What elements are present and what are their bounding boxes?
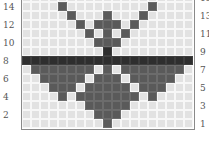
chart-cell-r3-c9 <box>94 101 103 110</box>
chart-cell-r11-c15 <box>148 29 157 38</box>
chart-cell-r9-c6 <box>67 47 76 56</box>
chart-cell-r5-c17 <box>166 83 175 92</box>
chart-cell-r4-c19 <box>184 92 193 101</box>
chart-cell-r9-c2 <box>31 47 40 56</box>
chart-cell-r4-c7 <box>76 92 85 101</box>
chart-cell-r10-c1 <box>22 38 31 47</box>
chart-cell-r4-c2 <box>31 92 40 101</box>
chart-cell-r14-c3 <box>40 2 49 11</box>
chart-cell-r12-c2 <box>31 20 40 29</box>
chart-cell-r1-c7 <box>76 119 85 128</box>
chart-cell-r14-c13 <box>130 2 139 11</box>
chart-cell-r6-c12 <box>121 74 130 83</box>
chart-cell-r6-c5 <box>58 74 67 83</box>
chart-cell-r14-c10 <box>103 2 112 11</box>
chart-cell-r11-c8 <box>85 29 94 38</box>
chart-cell-r10-c6 <box>67 38 76 47</box>
chart-cell-r1-c5 <box>58 119 67 128</box>
chart-cell-r13-c19 <box>184 11 193 20</box>
chart-cell-r5-c14 <box>139 83 148 92</box>
chart-cell-r5-c3 <box>40 83 49 92</box>
chart-cell-r6-c3 <box>40 74 49 83</box>
chart-cell-r10-c3 <box>40 38 49 47</box>
chart-cell-r5-c15 <box>148 83 157 92</box>
chart-cell-r13-c2 <box>31 11 40 20</box>
chart-cell-r13-c7 <box>76 11 85 20</box>
chart-cell-r12-c16 <box>157 20 166 29</box>
chart-cell-r11-c14 <box>139 29 148 38</box>
chart-cell-r4-c17 <box>166 92 175 101</box>
chart-cell-r4-c1 <box>22 92 31 101</box>
chart-cell-r6-c18 <box>175 74 184 83</box>
row-label-1: 1 <box>200 120 209 129</box>
chart-cell-r10-c2 <box>31 38 40 47</box>
chart-cell-r3-c6 <box>67 101 76 110</box>
chart-cell-r10-c17 <box>166 38 175 47</box>
chart-cell-r13-c5 <box>58 11 67 20</box>
chart-cell-r10-c15 <box>148 38 157 47</box>
chart-cell-r4-c9 <box>94 92 103 101</box>
chart-cell-r2-c13 <box>130 110 139 119</box>
chart-cell-r10-c16 <box>157 38 166 47</box>
chart-cell-r10-c12 <box>121 38 130 47</box>
chart-cell-r7-c19 <box>184 65 193 74</box>
chart-cell-r5-c18 <box>175 83 184 92</box>
chart-cell-r4-c4 <box>49 92 58 101</box>
chart-cell-r10-c4 <box>49 38 58 47</box>
chart-cell-r1-c6 <box>67 119 76 128</box>
chart-cell-r2-c14 <box>139 110 148 119</box>
chart-cell-r6-c14 <box>139 74 148 83</box>
chart-cell-r12-c12 <box>121 20 130 29</box>
row-label-15: 15 <box>200 0 209 3</box>
chart-cell-r10-c7 <box>76 38 85 47</box>
chart-cell-r12-c4 <box>49 20 58 29</box>
chart-cell-r8-c6 <box>67 56 76 65</box>
chart-cell-r5-c16 <box>157 83 166 92</box>
chart-cell-r13-c11 <box>112 11 121 20</box>
chart-cell-r12-c8 <box>85 20 94 29</box>
chart-cell-r10-c9 <box>94 38 103 47</box>
chart-cell-r1-c3 <box>40 119 49 128</box>
knitting-chart-grid <box>22 0 193 128</box>
chart-cell-r6-c17 <box>166 74 175 83</box>
chart-cell-r2-c17 <box>166 110 175 119</box>
row-label-5: 5 <box>200 84 209 93</box>
chart-cell-r5-c11 <box>112 83 121 92</box>
chart-cell-r8-c17 <box>166 56 175 65</box>
chart-cell-r6-c2 <box>31 74 40 83</box>
chart-cell-r1-c4 <box>49 119 58 128</box>
chart-cell-r8-c18 <box>175 56 184 65</box>
chart-cell-r8-c15 <box>148 56 157 65</box>
chart-cell-r9-c11 <box>112 47 121 56</box>
chart-cell-r2-c18 <box>175 110 184 119</box>
chart-cell-r9-c8 <box>85 47 94 56</box>
chart-cell-r6-c9 <box>94 74 103 83</box>
chart-cell-r14-c12 <box>121 2 130 11</box>
chart-cell-r8-c2 <box>31 56 40 65</box>
chart-cell-r1-c14 <box>139 119 148 128</box>
chart-cell-r3-c2 <box>31 101 40 110</box>
chart-cell-r14-c5 <box>58 2 67 11</box>
chart-cell-r7-c18 <box>175 65 184 74</box>
chart-cell-r3-c11 <box>112 101 121 110</box>
chart-cell-r7-c16 <box>157 65 166 74</box>
chart-cell-r1-c16 <box>157 119 166 128</box>
chart-cell-r12-c19 <box>184 20 193 29</box>
chart-cell-r11-c7 <box>76 29 85 38</box>
chart-cell-r8-c10 <box>103 56 112 65</box>
chart-cell-r5-c5 <box>58 83 67 92</box>
chart-cell-r9-c10 <box>103 47 112 56</box>
chart-cell-r7-c5 <box>58 65 67 74</box>
chart-cell-r11-c17 <box>166 29 175 38</box>
chart-cell-r11-c13 <box>130 29 139 38</box>
chart-cell-r6-c13 <box>130 74 139 83</box>
chart-cell-r12-c9 <box>94 20 103 29</box>
chart-cell-r9-c5 <box>58 47 67 56</box>
chart-cell-r7-c6 <box>67 65 76 74</box>
chart-cell-r6-c7 <box>76 74 85 83</box>
chart-cell-r2-c4 <box>49 110 58 119</box>
chart-cell-r4-c13 <box>130 92 139 101</box>
chart-cell-r6-c15 <box>148 74 157 83</box>
chart-cell-r9-c17 <box>166 47 175 56</box>
chart-cell-r13-c16 <box>157 11 166 20</box>
